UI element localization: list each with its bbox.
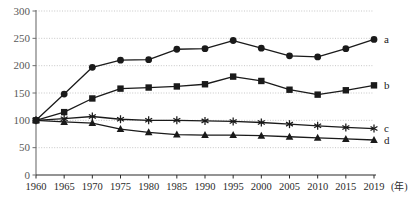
y-axis-tick-label: 150 <box>2 88 30 99</box>
series-label-d: d <box>384 135 390 146</box>
marker-square <box>371 82 377 88</box>
marker-square <box>202 81 208 87</box>
marker-square <box>89 95 95 101</box>
marker-circle <box>89 64 96 71</box>
marker-square <box>174 83 180 89</box>
marker-circle <box>342 45 349 52</box>
marker-circle <box>173 46 180 53</box>
y-axis-tick-label: 250 <box>2 33 30 44</box>
marker-circle <box>117 57 124 64</box>
marker-circle <box>61 91 68 98</box>
marker-square <box>61 109 67 115</box>
marker-circle <box>230 37 237 44</box>
marker-circle <box>145 56 152 63</box>
marker-circle <box>258 45 265 52</box>
marker-square <box>230 73 236 79</box>
series-b <box>33 73 377 123</box>
x-axis-unit-label: (年) <box>391 181 408 192</box>
marker-circle <box>202 45 209 52</box>
y-axis-tick-label: 0 <box>2 170 30 181</box>
series-a <box>33 36 378 124</box>
y-axis-tick-label: 50 <box>2 142 30 153</box>
series-label-c: c <box>384 123 389 134</box>
marker-square <box>286 87 292 93</box>
marker-circle <box>314 54 321 61</box>
y-axis-tick-label: 300 <box>2 6 30 17</box>
y-axis-tick-label: 100 <box>2 115 30 126</box>
y-axis-tick-label: 200 <box>2 60 30 71</box>
series-label-b: b <box>384 80 390 91</box>
marker-square <box>314 91 320 97</box>
marker-square <box>145 84 151 90</box>
x-axis-tick-label: 2019 <box>357 181 391 192</box>
marker-square <box>343 87 349 93</box>
marker-square <box>117 85 123 91</box>
marker-square <box>258 78 264 84</box>
chart-plot-area <box>0 0 410 210</box>
marker-circle <box>371 36 378 43</box>
marker-circle <box>286 52 293 59</box>
series-label-a: a <box>384 34 389 45</box>
line-chart: abcd050100150200250300196019651970197519… <box>0 0 410 210</box>
